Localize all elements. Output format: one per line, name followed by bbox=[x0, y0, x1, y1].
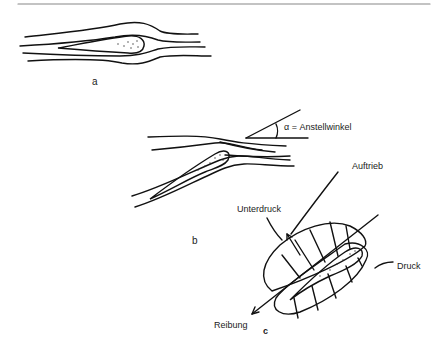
lift-label: Auftrieb bbox=[352, 162, 383, 171]
drag-label: Reibung bbox=[214, 321, 248, 330]
panel-b-airfoil bbox=[150, 151, 229, 199]
airfoil-stipple bbox=[117, 40, 355, 276]
pressure-label: Druck bbox=[397, 262, 421, 271]
panel-a-label: a bbox=[92, 77, 98, 87]
panel-b-label: b bbox=[192, 236, 198, 246]
panel-a-streamlines bbox=[20, 22, 211, 64]
panel-c-label: c bbox=[263, 327, 268, 336]
suction-label: Unterdruck bbox=[237, 205, 281, 214]
angle-of-attack-label: α = Anstellwinkel bbox=[284, 123, 351, 132]
panel-c-pressure-distribution bbox=[252, 172, 393, 318]
